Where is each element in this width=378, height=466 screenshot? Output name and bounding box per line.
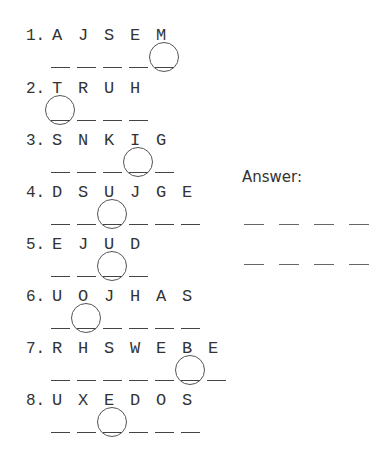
letter-blank[interactable] — [51, 432, 70, 433]
scrambled-letter: H — [128, 287, 142, 306]
scrambled-letter: E — [180, 183, 194, 202]
scrambled-letter: D — [128, 391, 142, 410]
letter-blank[interactable] — [181, 328, 200, 329]
answer-blank[interactable] — [349, 264, 369, 265]
scrambled-letter: S — [76, 183, 90, 202]
letter-blank[interactable] — [155, 172, 174, 173]
scrambled-letter: A — [50, 26, 64, 45]
scrambled-letter: J — [102, 287, 116, 306]
letter-blank[interactable] — [77, 224, 96, 225]
letter-blank[interactable] — [77, 380, 96, 381]
letter-blank[interactable] — [181, 224, 200, 225]
scrambled-letter: E — [154, 339, 168, 358]
answer-blank[interactable] — [279, 264, 299, 265]
answer-blank[interactable] — [314, 264, 334, 265]
letter-blank[interactable] — [51, 224, 70, 225]
scrambled-letter: R — [50, 339, 64, 358]
letter-blank[interactable] — [155, 432, 174, 433]
circled-blank-marker — [149, 42, 179, 72]
letter-blank[interactable] — [77, 276, 96, 277]
letter-blank[interactable] — [51, 328, 70, 329]
puzzle-number: 8. — [26, 392, 45, 410]
scrambled-letter: X — [76, 391, 90, 410]
puzzle-number: 3. — [26, 132, 45, 150]
scrambled-letter: H — [76, 339, 90, 358]
scrambled-letter: J — [76, 26, 90, 45]
letter-blank[interactable] — [155, 328, 174, 329]
scrambled-letter: U — [102, 79, 116, 98]
circled-blank-marker — [71, 303, 101, 333]
circled-blank-marker — [123, 147, 153, 177]
letter-blank[interactable] — [129, 276, 148, 277]
letter-blank[interactable] — [129, 67, 148, 68]
circled-blank-marker — [97, 251, 127, 281]
circled-blank-marker — [45, 95, 75, 125]
letter-blank[interactable] — [77, 67, 96, 68]
scrambled-letter: N — [76, 131, 90, 150]
letter-blank[interactable] — [129, 328, 148, 329]
scrambled-letter: S — [180, 391, 194, 410]
letter-blank[interactable] — [103, 120, 122, 121]
scrambled-letter: E — [128, 26, 142, 45]
scrambled-letter: S — [102, 26, 116, 45]
scrambled-letter: U — [50, 391, 64, 410]
letter-blank[interactable] — [77, 172, 96, 173]
scrambled-letter: H — [128, 79, 142, 98]
letter-blank[interactable] — [129, 120, 148, 121]
letter-blank[interactable] — [77, 120, 96, 121]
letter-blank[interactable] — [51, 67, 70, 68]
answer-blank[interactable] — [349, 224, 369, 225]
answer-blank[interactable] — [279, 224, 299, 225]
scrambled-letter: A — [154, 287, 168, 306]
puzzle-number: 7. — [26, 340, 45, 358]
scrambled-letter: D — [50, 183, 64, 202]
answer-blank[interactable] — [244, 264, 264, 265]
scrambled-letter: U — [50, 287, 64, 306]
letter-blank[interactable] — [51, 276, 70, 277]
scrambled-letter: G — [154, 183, 168, 202]
scrambled-letter: E — [206, 339, 220, 358]
letter-blank[interactable] — [103, 172, 122, 173]
letter-blank[interactable] — [129, 224, 148, 225]
circled-blank-marker — [97, 407, 127, 437]
scrambled-letter: R — [76, 79, 90, 98]
letter-blank[interactable] — [181, 432, 200, 433]
scrambled-letter: S — [180, 287, 194, 306]
letter-blank[interactable] — [155, 224, 174, 225]
puzzle-number: 2. — [26, 80, 45, 98]
letter-blank[interactable] — [77, 432, 96, 433]
answer-blank[interactable] — [244, 224, 264, 225]
circled-blank-marker — [97, 199, 127, 229]
letter-blank[interactable] — [51, 172, 70, 173]
scrambled-letter: J — [76, 235, 90, 254]
scrambled-letter: G — [154, 131, 168, 150]
letter-blank[interactable] — [103, 67, 122, 68]
circled-blank-marker — [175, 355, 205, 385]
puzzle-number: 1. — [26, 27, 45, 45]
scrambled-letter: J — [128, 183, 142, 202]
letter-blank[interactable] — [51, 380, 70, 381]
puzzle-number: 6. — [26, 288, 45, 306]
scrambled-letter: D — [128, 235, 142, 254]
letter-blank[interactable] — [155, 380, 174, 381]
letter-blank[interactable] — [207, 380, 226, 381]
puzzle-number: 5. — [26, 236, 45, 254]
letter-blank[interactable] — [103, 328, 122, 329]
scrambled-letter: W — [128, 339, 142, 358]
scrambled-letter: S — [50, 131, 64, 150]
letter-blank[interactable] — [103, 380, 122, 381]
scrambled-letter: S — [102, 339, 116, 358]
letter-blank[interactable] — [129, 380, 148, 381]
answer-label: Answer: — [242, 168, 302, 186]
answer-blank[interactable] — [314, 224, 334, 225]
scrambled-letter: O — [154, 391, 168, 410]
scrambled-letter: K — [102, 131, 116, 150]
letter-blank[interactable] — [129, 432, 148, 433]
scrambled-letter: E — [50, 235, 64, 254]
puzzle-number: 4. — [26, 184, 45, 202]
